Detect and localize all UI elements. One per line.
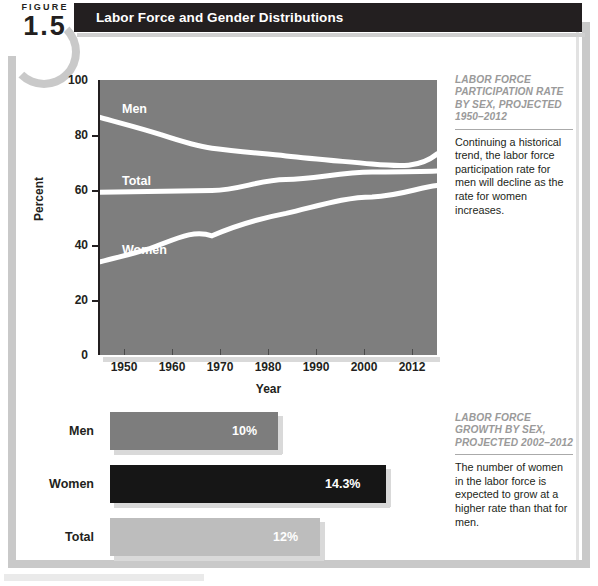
xtick-mark-1970 xyxy=(220,349,221,355)
bar-value-men: 10% xyxy=(232,412,257,450)
xtick-label-2000: 2000 xyxy=(344,360,384,374)
series-label-men: Men xyxy=(122,102,147,116)
bar-shadow-total-bottom xyxy=(114,556,324,561)
bar-label-total: Total xyxy=(32,518,94,556)
bar-row-women: Women 14.3% xyxy=(32,465,442,503)
ytick-mark-40 xyxy=(92,245,98,247)
y-axis-line xyxy=(98,80,100,355)
bar-label-men: Men xyxy=(32,412,94,450)
ytick-mark-80 xyxy=(92,135,98,137)
ytick-label-40: 40 xyxy=(58,238,88,252)
bar-shadow-women-bottom xyxy=(114,503,390,508)
series-label-total: Total xyxy=(122,174,151,188)
sidebar-rule-participation xyxy=(455,129,573,130)
sidebar-block-participation: LABOR FORCE PARTICIPATION RATE BY SEX, P… xyxy=(455,74,573,217)
bar-value-women: 14.3% xyxy=(325,465,360,503)
bar-track-men: 10% xyxy=(110,412,278,450)
bar-row-total: Total 12% xyxy=(32,518,442,556)
bar-shadow-men-right xyxy=(278,416,283,454)
sidebar-kicker-growth: LABOR FORCE GROWTH BY SEX, PROJECTED 200… xyxy=(455,412,573,449)
plot-area: Men Total Women xyxy=(100,80,437,355)
bar-label-women: Women xyxy=(32,465,94,503)
xtick-mark-2000 xyxy=(364,349,365,355)
series-label-women: Women xyxy=(122,243,167,257)
figure-digits: 1.5 xyxy=(14,13,76,40)
sidebar-kicker-participation: LABOR FORCE PARTICIPATION RATE BY SEX, P… xyxy=(455,74,573,124)
bar-shadow-women-right xyxy=(386,469,391,507)
bar-track-total: 12% xyxy=(110,518,320,556)
ytick-label-100: 100 xyxy=(58,73,88,87)
bar-value-total: 12% xyxy=(273,518,298,556)
title-bar: Labor Force and Gender Distributions xyxy=(74,3,582,32)
sidebar-body-growth: The number of women in the labor force i… xyxy=(455,461,573,529)
frame-bottom-bar xyxy=(8,560,590,568)
xtick-mark-1960 xyxy=(172,349,173,355)
xtick-label-2012: 2012 xyxy=(392,360,432,374)
bar-chart: Men 10% Women 14.3% Total xyxy=(32,412,442,552)
ytick-label-80: 80 xyxy=(58,128,88,142)
ytick-mark-60 xyxy=(92,190,98,192)
xtick-label-1950: 1950 xyxy=(104,360,144,374)
line-chart: Men Total Women 73.1 67.2 61.6 100 80 60… xyxy=(32,72,442,392)
x-axis-label: Year xyxy=(100,382,437,396)
figure-page: FIGURE 1.5 Labor Force and Gender Distri… xyxy=(0,0,598,586)
page-bottom-sliver xyxy=(4,574,204,581)
ytick-mark-20 xyxy=(92,300,98,302)
bar-shadow-total-right xyxy=(320,522,325,560)
frame-left-bar xyxy=(8,46,16,568)
xtick-label-1960: 1960 xyxy=(152,360,192,374)
sidebar-block-growth: LABOR FORCE GROWTH BY SEX, PROJECTED 200… xyxy=(455,412,573,529)
frame-right-bar xyxy=(582,22,590,568)
xtick-mark-2012 xyxy=(412,349,413,355)
line-series-svg xyxy=(100,80,437,355)
xtick-mark-1980 xyxy=(268,349,269,355)
bar-shadow-men-bottom xyxy=(114,450,282,455)
title-bar-shadow xyxy=(77,33,585,37)
page-title: Labor Force and Gender Distributions xyxy=(96,3,343,32)
sidebar-rule-growth xyxy=(455,454,573,455)
frame-inner-right-bar xyxy=(576,22,579,560)
xtick-mark-1950 xyxy=(124,349,125,355)
sidebar-body-participation: Continuing a historical trend, the labor… xyxy=(455,136,573,218)
xtick-label-1970: 1970 xyxy=(200,360,240,374)
bar-row-men: Men 10% xyxy=(32,412,442,450)
xtick-mark-1990 xyxy=(316,349,317,355)
ytick-label-0: 0 xyxy=(58,348,88,362)
xtick-label-1980: 1980 xyxy=(248,360,288,374)
figure-number: FIGURE 1.5 xyxy=(14,2,76,40)
ytick-label-60: 60 xyxy=(58,183,88,197)
xtick-label-1990: 1990 xyxy=(296,360,336,374)
series-line-men xyxy=(100,117,437,165)
bar-track-women: 14.3% xyxy=(110,465,386,503)
ytick-label-20: 20 xyxy=(58,293,88,307)
y-axis-label: Percent xyxy=(32,154,46,244)
